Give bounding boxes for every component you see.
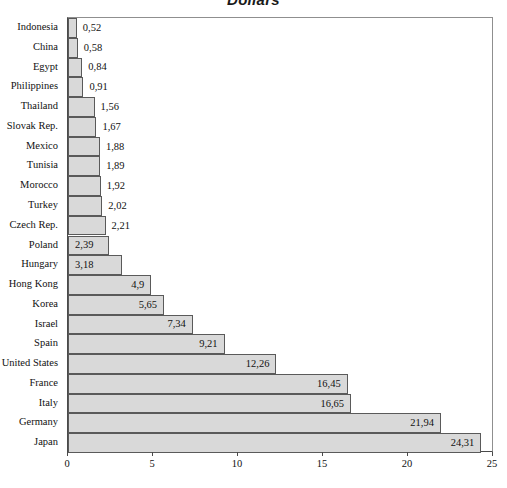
category-label-turkey: Turkey bbox=[0, 195, 63, 215]
bar-value-label: 9,21 bbox=[199, 334, 217, 354]
bar-value-label: 2,21 bbox=[112, 216, 130, 236]
x-axis-tick-label: 20 bbox=[402, 458, 413, 469]
bar-row: 16,45 bbox=[68, 374, 494, 394]
x-axis-tick-label: 10 bbox=[232, 458, 243, 469]
bar-value-label: 1,88 bbox=[106, 137, 124, 157]
bar-value-label: 1,67 bbox=[102, 117, 120, 137]
category-label-korea: Korea bbox=[0, 294, 63, 314]
category-label-poland: Poland bbox=[0, 235, 63, 255]
bar-value-label: 7,34 bbox=[167, 315, 185, 335]
category-label-tunisia: Tunisia bbox=[0, 155, 63, 175]
bar-row: 0,58 bbox=[68, 38, 494, 58]
bar bbox=[68, 176, 101, 196]
bar-value-label: 5,65 bbox=[139, 295, 157, 315]
x-axis: 0510152025 bbox=[67, 452, 493, 482]
x-axis-tick bbox=[407, 452, 408, 456]
bar-value-label: 1,92 bbox=[107, 176, 125, 196]
bar bbox=[68, 374, 348, 394]
category-label-israel: Israel bbox=[0, 314, 63, 334]
bar-row: 1,56 bbox=[68, 97, 494, 117]
bar-row: 0,91 bbox=[68, 77, 494, 97]
bar-value-label: 0,84 bbox=[88, 58, 106, 78]
bar-value-label: 0,52 bbox=[83, 18, 101, 38]
category-label-czech-rep: Czech Rep. bbox=[0, 215, 63, 235]
bar-value-label: 1,89 bbox=[106, 156, 124, 176]
bar-value-label: 12,26 bbox=[246, 354, 270, 374]
bar bbox=[68, 58, 82, 78]
bar-value-label: 2,02 bbox=[108, 196, 126, 216]
bar-value-label: 16,45 bbox=[317, 374, 341, 394]
chart-title: Dollars bbox=[0, 0, 507, 8]
bar bbox=[68, 196, 102, 216]
bar-row: 9,21 bbox=[68, 334, 494, 354]
category-label-china: China bbox=[0, 37, 63, 57]
category-label-spain: Spain bbox=[0, 333, 63, 353]
bar-row: 2,21 bbox=[68, 216, 494, 236]
x-axis-tick bbox=[492, 452, 493, 456]
bar bbox=[68, 156, 100, 176]
category-label-united-states: United States bbox=[0, 353, 63, 373]
bar bbox=[68, 137, 100, 157]
bar bbox=[68, 117, 96, 137]
bar-row: 5,65 bbox=[68, 295, 494, 315]
bar bbox=[68, 394, 351, 414]
bar bbox=[68, 216, 106, 236]
bar bbox=[68, 18, 77, 38]
bar bbox=[68, 413, 441, 433]
category-label-mexico: Mexico bbox=[0, 136, 63, 156]
x-axis-tick bbox=[67, 452, 68, 456]
bar-row: 7,34 bbox=[68, 315, 494, 335]
category-label-italy: Italy bbox=[0, 393, 63, 413]
bar-value-label: 0,91 bbox=[89, 77, 107, 97]
bar-value-label: 16,65 bbox=[320, 394, 344, 414]
x-axis-tick-label: 0 bbox=[64, 458, 69, 469]
bar-row: 24,31 bbox=[68, 433, 494, 453]
bar-value-label: 4,9 bbox=[131, 275, 144, 295]
bar-value-label: 21,94 bbox=[410, 413, 434, 433]
x-axis-tick bbox=[322, 452, 323, 456]
x-axis-tick-label: 5 bbox=[149, 458, 154, 469]
category-label-france: France bbox=[0, 373, 63, 393]
x-axis-tick bbox=[237, 452, 238, 456]
x-axis-tick-label: 25 bbox=[487, 458, 498, 469]
bar-row: 16,65 bbox=[68, 394, 494, 414]
category-label-thailand: Thailand bbox=[0, 96, 63, 116]
plot-area: 0,520,580,840,911,561,671,881,891,922,02… bbox=[67, 17, 493, 452]
bar bbox=[68, 433, 481, 453]
category-label-indonesia: Indonesia bbox=[0, 17, 63, 37]
category-label-morocco: Morocco bbox=[0, 175, 63, 195]
bar-row: 1,67 bbox=[68, 117, 494, 137]
x-axis-tick bbox=[152, 452, 153, 456]
bar-row: 3,18 bbox=[68, 255, 494, 275]
bar-row: 1,92 bbox=[68, 176, 494, 196]
bar-row: 0,52 bbox=[68, 18, 494, 38]
category-label-germany: Germany bbox=[0, 412, 63, 432]
bar-row: 1,89 bbox=[68, 156, 494, 176]
bar bbox=[68, 97, 95, 117]
bar-row: 21,94 bbox=[68, 413, 494, 433]
bar-value-label: 3,18 bbox=[75, 255, 93, 275]
category-label-hong-kong: Hong Kong bbox=[0, 274, 63, 294]
bar-value-label: 0,58 bbox=[84, 38, 102, 58]
category-label-slovak-rep: Slovak Rep. bbox=[0, 116, 63, 136]
category-label-japan: Japan bbox=[0, 432, 63, 452]
bar-row: 2,02 bbox=[68, 196, 494, 216]
bar bbox=[68, 38, 78, 58]
bar-value-label: 2,39 bbox=[75, 235, 93, 255]
category-label-hungary: Hungary bbox=[0, 254, 63, 274]
bar-row: 12,26 bbox=[68, 354, 494, 374]
bar-row: 2,39 bbox=[68, 236, 494, 256]
bar-row: 1,88 bbox=[68, 137, 494, 157]
bar-value-label: 24,31 bbox=[451, 433, 475, 453]
bar-chart: Dollars IndonesiaChinaEgyptPhilippinesTh… bbox=[0, 0, 507, 488]
category-label-egypt: Egypt bbox=[0, 57, 63, 77]
bar-row: 4,9 bbox=[68, 275, 494, 295]
bar-row: 0,84 bbox=[68, 58, 494, 78]
bar bbox=[68, 77, 83, 97]
y-axis-category-labels: IndonesiaChinaEgyptPhilippinesThailandSl… bbox=[0, 17, 63, 452]
bar-value-label: 1,56 bbox=[101, 97, 119, 117]
category-label-philippines: Philippines bbox=[0, 76, 63, 96]
x-axis-tick-label: 15 bbox=[317, 458, 328, 469]
